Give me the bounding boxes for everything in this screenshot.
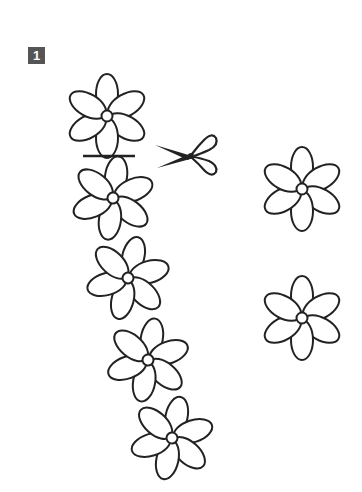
cut-flower bbox=[260, 147, 344, 231]
chain-flower bbox=[77, 227, 179, 329]
flower-chain bbox=[65, 74, 222, 488]
flower-cutting-illustration bbox=[0, 0, 362, 492]
cut-flowers bbox=[260, 147, 344, 360]
chain-flower bbox=[66, 151, 161, 246]
cut-flower bbox=[260, 276, 344, 360]
chain-flower bbox=[122, 388, 221, 488]
scissors-icon bbox=[155, 135, 217, 174]
chain-flower bbox=[99, 311, 196, 408]
chain-flower bbox=[65, 74, 149, 158]
